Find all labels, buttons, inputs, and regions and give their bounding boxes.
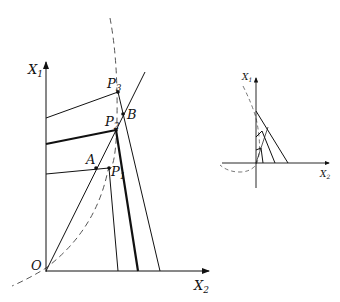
inset-line-middle-down — [262, 131, 275, 163]
label-P1: P1 — [110, 164, 125, 181]
label-P2: P2 — [104, 114, 120, 131]
point-B — [121, 112, 125, 116]
diagram-canvas: X1 X2 O P3 B P2 A P1 X1 X2 — [0, 0, 340, 302]
label-P3: P3 — [106, 76, 122, 93]
dashed-curve — [12, 18, 117, 286]
inset-dashed-curve — [220, 86, 260, 172]
inset-diagram: X1 X2 — [220, 72, 330, 188]
x-axis-label: X2 — [193, 278, 209, 295]
ray-OB — [46, 72, 145, 271]
main-diagram: X1 X2 O P3 B P2 A P1 — [12, 18, 209, 295]
inset-y-axis-label: X1 — [241, 72, 252, 83]
label-A: A — [85, 152, 95, 167]
label-B: B — [126, 107, 137, 122]
line-to-P2-bold — [46, 130, 116, 144]
line-P2-down-bold — [116, 130, 138, 271]
y-axis-label: X1 — [27, 62, 43, 79]
origin-label: O — [31, 258, 42, 273]
inset-x-axis-label: X2 — [319, 169, 330, 180]
line-to-P1 — [46, 168, 109, 174]
inset-line-inner-down — [261, 148, 263, 163]
line-P1-down — [109, 168, 118, 271]
